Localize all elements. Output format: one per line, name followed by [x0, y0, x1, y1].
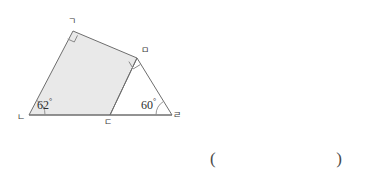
degree-symbol-62: ° — [49, 97, 52, 106]
angle-label-60: 60° — [141, 98, 156, 111]
vertex-label-d: ㄷ — [104, 118, 112, 127]
answer-close-paren: ) — [336, 150, 342, 167]
angle-label-62: 62° — [37, 98, 52, 111]
vertex-label-m: ㅁ — [141, 46, 149, 55]
angle-arc-60 — [156, 101, 164, 115]
vertex-label-n: ㄴ — [17, 113, 25, 122]
answer-blank[interactable]: ( ) — [210, 145, 342, 171]
vertex-label-r: ㄹ — [173, 111, 181, 120]
answer-open-paren: ( — [210, 150, 216, 167]
vertex-label-g: ㄱ — [68, 17, 76, 26]
degree-symbol-60: ° — [153, 97, 156, 106]
angle-value-60: 60 — [141, 98, 153, 112]
angle-value-62: 62 — [37, 98, 49, 112]
